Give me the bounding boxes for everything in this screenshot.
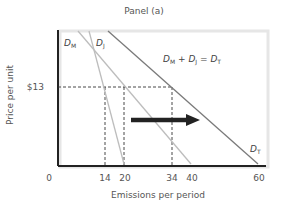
demand-curve-dj <box>89 31 124 164</box>
x-tick-0: 0 <box>46 173 52 183</box>
y-axis-label: Price per unit <box>5 65 15 125</box>
demand-curve-dt <box>108 31 258 164</box>
label-dj: DJ <box>96 38 105 49</box>
x-tick-60: 60 <box>253 173 264 183</box>
shift-arrow-head <box>186 114 200 126</box>
x-tick-14: 14 <box>99 173 110 183</box>
x-tick-20: 20 <box>119 173 130 183</box>
equation-label: DM + DJ = DT <box>163 54 221 65</box>
y-axis-label-wrap: Price per unit <box>2 40 18 150</box>
x-axis-label: Emissions per period <box>58 190 258 200</box>
label-dm: DM <box>64 38 76 49</box>
plot-frame-shadow <box>60 31 268 167</box>
demand-curve-dm <box>78 31 191 164</box>
y-tick-13: $13 <box>27 82 44 92</box>
x-tick-40: 40 <box>186 173 197 183</box>
label-dt: DT <box>250 144 261 155</box>
plot-area <box>0 0 288 219</box>
x-tick-34: 34 <box>166 173 177 183</box>
